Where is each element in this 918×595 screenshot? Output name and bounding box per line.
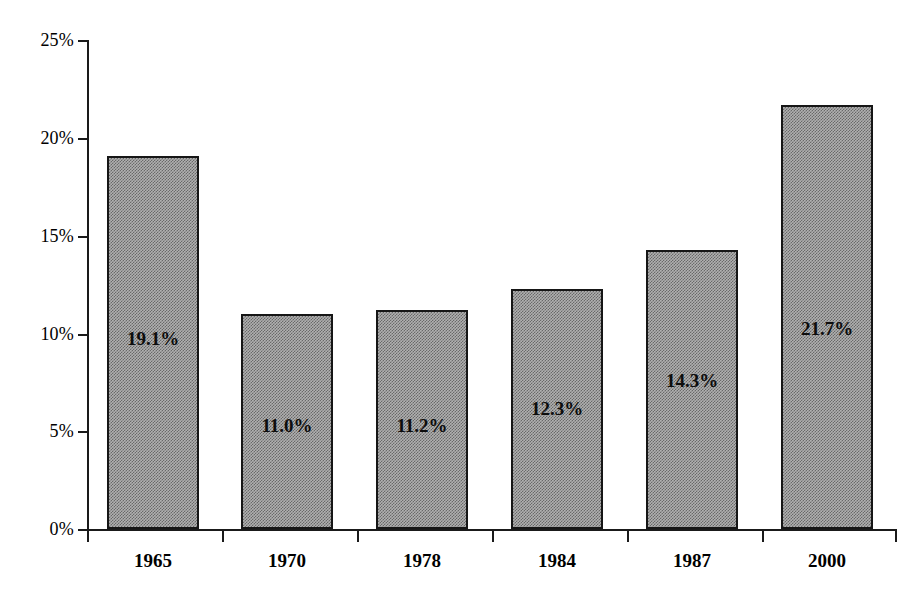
x-axis-category-1984: 1984	[497, 551, 617, 571]
y-axis-label-10: 10%	[0, 325, 74, 343]
y-axis-label-20: 20%	[0, 129, 74, 147]
x-axis-tick-1	[222, 531, 224, 542]
bar-value-1970: 11.0%	[237, 416, 337, 435]
x-axis-tick-4	[627, 531, 629, 542]
x-axis-category-1978: 1978	[362, 551, 482, 571]
y-axis-label-text: 25%	[0, 31, 74, 49]
x-axis-category-2000: 2000	[767, 551, 887, 571]
x-axis-tick-2	[357, 531, 359, 542]
y-axis-label-25: 25%	[0, 31, 74, 49]
x-axis-tick-3	[492, 531, 494, 542]
x-axis-category-1970: 1970	[227, 551, 347, 571]
y-axis-label-5: 5%	[0, 422, 74, 440]
y-axis-label-15: 15%	[0, 227, 74, 245]
y-axis-line	[87, 40, 89, 531]
x-axis-tick-0	[87, 531, 89, 542]
y-axis-label-text: 10%	[0, 325, 74, 343]
bar-value-1984: 12.3%	[507, 399, 607, 418]
bar-value-1965: 19.1%	[103, 329, 203, 348]
x-axis-tick-6	[895, 531, 897, 542]
x-axis-category-1965: 1965	[93, 551, 213, 571]
x-axis-category-1987: 1987	[632, 551, 752, 571]
y-axis-label-text: 5%	[0, 422, 74, 440]
bar-value-1987: 14.3%	[642, 371, 742, 390]
bar-value-1978: 11.2%	[372, 416, 472, 435]
y-axis-label-text: 15%	[0, 227, 74, 245]
bar-chart: 25% 20% 15% 10% 5% 0% 19.1% 1965 11.0% 1…	[0, 0, 918, 595]
y-axis-label-0: 0%	[0, 520, 74, 538]
x-axis-tick-5	[762, 531, 764, 542]
bar-value-2000: 21.7%	[777, 319, 877, 338]
bar-2000[interactable]	[781, 105, 873, 529]
y-axis-label-text: 20%	[0, 129, 74, 147]
y-axis-label-text: 0%	[0, 520, 74, 538]
